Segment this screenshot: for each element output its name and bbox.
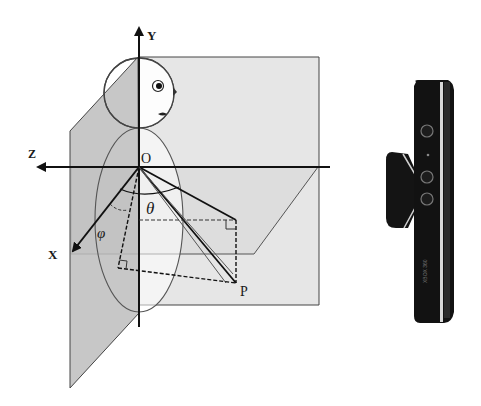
kinect-brand-text: XBOX 360 xyxy=(422,259,428,283)
kinect-ir-emitter xyxy=(421,125,433,137)
kinect-base xyxy=(386,152,418,228)
theta-label: θ xyxy=(146,199,154,218)
point-p-label: P xyxy=(240,284,248,299)
x-axis-label: X xyxy=(48,247,58,262)
z-axis-label: Z xyxy=(28,147,36,161)
kinect-rgb-camera xyxy=(421,171,433,183)
vertical-side-plane xyxy=(70,57,139,388)
diagram-canvas: Y Z X O P θ φ XBOX 360 xyxy=(0,0,481,406)
origin-label: O xyxy=(141,151,151,166)
y-axis-label: Y xyxy=(147,28,157,43)
kinect-sensor: XBOX 360 xyxy=(386,80,454,323)
kinect-led xyxy=(427,154,430,157)
coordinate-diagram: Y Z X O P θ φ XBOX 360 xyxy=(0,0,481,406)
phi-label: φ xyxy=(97,225,105,241)
kinect-depth-camera xyxy=(421,193,433,205)
